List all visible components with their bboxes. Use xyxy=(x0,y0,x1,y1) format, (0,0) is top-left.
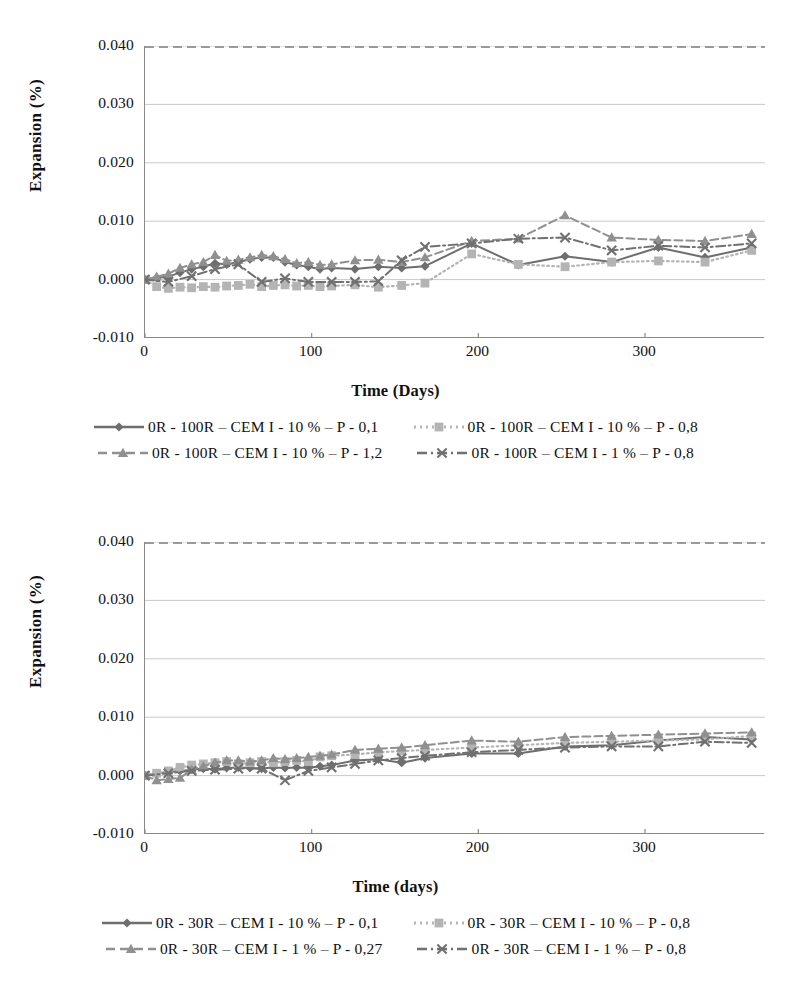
data-point xyxy=(257,282,266,291)
data-point xyxy=(560,210,570,219)
legend-item-3[interactable]: 0R - 100R – CEM I - 10 % – P - 1,2 xyxy=(97,444,383,462)
figure-page: Expansion (%) 0.0400.0300.0200.0100.000-… xyxy=(0,0,791,992)
legend-label: 0R - 100R – CEM I - 10 % – P - 0,1 xyxy=(148,418,379,436)
legend-key-square-icon xyxy=(413,419,465,435)
data-point xyxy=(746,229,756,238)
x-tick-label: 0 xyxy=(124,342,164,360)
x-tick-label: 100 xyxy=(291,342,331,360)
legend-item-4[interactable]: 0R - 100R – CEM I - 1 % – P - 0,8 xyxy=(416,444,694,462)
data-point xyxy=(373,255,383,264)
data-point xyxy=(292,282,301,291)
x-axis-title: Time (days) xyxy=(0,877,791,897)
legend-item-2[interactable]: 0R - 30R – CEM I - 10 % – P - 0,8 xyxy=(413,914,691,932)
y-tick-label: 0.020 xyxy=(72,153,134,171)
legend-label: 0R - 30R – CEM I - 1 % – P - 0,8 xyxy=(471,940,686,958)
legend-label: 0R - 100R – CEM I - 10 % – P - 0,8 xyxy=(468,418,699,436)
data-point xyxy=(176,283,185,292)
legend-row: 0R - 100R – CEM I - 10 % – P - 1,20R - 1… xyxy=(0,440,791,466)
data-point xyxy=(246,280,255,289)
data-point xyxy=(163,269,173,278)
plot-canvas xyxy=(145,542,765,834)
legend-label: 0R - 30R – CEM I - 10 % – P - 0,8 xyxy=(468,914,691,932)
legend-row: 0R - 100R – CEM I - 10 % – P - 0,10R - 1… xyxy=(0,414,791,440)
data-point xyxy=(397,281,406,290)
y-tick-label: 0.010 xyxy=(72,211,134,229)
y-tick-label: 0.040 xyxy=(72,532,134,550)
data-point xyxy=(211,283,220,292)
x-tick-label: 100 xyxy=(291,838,331,856)
plot-area-bottom xyxy=(144,542,764,834)
data-point xyxy=(303,257,313,266)
data-point xyxy=(316,282,325,291)
data-point xyxy=(175,773,185,782)
y-axis-title: Expansion (%) xyxy=(26,575,46,688)
legend-key-square-icon xyxy=(413,915,465,931)
legend-label: 0R - 30R – CEM I - 10 % – P - 0,1 xyxy=(156,914,379,932)
data-point xyxy=(420,262,429,271)
y-tick-label: 0.030 xyxy=(72,94,134,112)
data-point xyxy=(187,283,196,292)
legend-bottom: 0R - 30R – CEM I - 10 % – P - 0,10R - 30… xyxy=(0,910,791,962)
x-axis-title: Time (Days) xyxy=(0,381,791,401)
plot-canvas xyxy=(145,46,765,338)
y-tick-label: 0.020 xyxy=(72,649,134,667)
data-point xyxy=(269,281,278,290)
data-point xyxy=(210,250,220,259)
data-point xyxy=(560,732,570,741)
data-point xyxy=(467,250,476,259)
data-point xyxy=(514,260,523,269)
y-tick-label: 0.000 xyxy=(72,270,134,288)
chart-bottom: Expansion (%) 0.0400.0300.0200.0100.000-… xyxy=(0,496,791,992)
legend-row: 0R - 30R – CEM I - 1 % – P - 0,270R - 30… xyxy=(0,936,791,962)
x-tick-label: 200 xyxy=(457,342,497,360)
legend-key-triangle-icon xyxy=(97,445,149,461)
legend-key-x-icon xyxy=(416,941,468,957)
y-tick-label: 0.010 xyxy=(72,707,134,725)
x-tick-label: 300 xyxy=(624,342,664,360)
data-point xyxy=(607,258,616,267)
data-point xyxy=(199,282,208,291)
data-point xyxy=(350,264,359,273)
legend-item-4[interactable]: 0R - 30R – CEM I - 1 % – P - 0,8 xyxy=(416,940,686,958)
data-point xyxy=(420,242,429,251)
legend-row: 0R - 30R – CEM I - 10 % – P - 0,10R - 30… xyxy=(0,910,791,936)
data-point xyxy=(467,743,476,752)
x-tick-label: 200 xyxy=(457,838,497,856)
data-point xyxy=(268,753,278,762)
legend-label: 0R - 100R – CEM I - 1 % – P - 0,8 xyxy=(471,444,694,462)
legend-label: 0R - 30R – CEM I - 1 % – P - 0,27 xyxy=(160,940,383,958)
y-axis-title: Expansion (%) xyxy=(26,79,46,192)
legend-item-1[interactable]: 0R - 100R – CEM I - 10 % – P - 0,1 xyxy=(93,418,379,436)
data-point xyxy=(152,282,161,291)
data-point xyxy=(701,258,710,267)
data-point xyxy=(654,257,663,266)
data-point xyxy=(222,282,231,291)
data-point xyxy=(280,776,289,785)
data-point xyxy=(198,257,208,266)
chart-top: Expansion (%) 0.0400.0300.0200.0100.000-… xyxy=(0,0,791,496)
data-point xyxy=(256,250,266,259)
legend-item-1[interactable]: 0R - 30R – CEM I - 10 % – P - 0,1 xyxy=(101,914,379,932)
data-point xyxy=(561,262,570,271)
legend-key-diamond-icon xyxy=(93,419,145,435)
x-tick-label: 0 xyxy=(124,838,164,856)
legend-key-diamond-icon xyxy=(101,915,153,931)
data-point xyxy=(234,281,243,290)
data-point xyxy=(560,252,569,261)
legend-item-2[interactable]: 0R - 100R – CEM I - 10 % – P - 0,8 xyxy=(413,418,699,436)
data-point xyxy=(176,763,185,772)
legend-key-x-icon xyxy=(416,445,468,461)
data-point xyxy=(421,279,430,288)
y-tick-label: 0.040 xyxy=(72,36,134,54)
legend-top: 0R - 100R – CEM I - 10 % – P - 0,10R - 1… xyxy=(0,414,791,466)
legend-item-3[interactable]: 0R - 30R – CEM I - 1 % – P - 0,27 xyxy=(105,940,383,958)
legend-key-triangle-icon xyxy=(105,941,157,957)
legend-label: 0R - 100R – CEM I - 10 % – P - 1,2 xyxy=(152,444,383,462)
y-tick-label: 0.000 xyxy=(72,766,134,784)
plot-area-top xyxy=(144,46,764,338)
x-tick-label: 300 xyxy=(624,838,664,856)
y-tick-label: 0.030 xyxy=(72,590,134,608)
